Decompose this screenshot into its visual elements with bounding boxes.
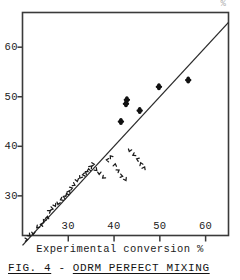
y-tick-label: 50	[0, 91, 18, 103]
y-tick-label: 40	[0, 140, 18, 152]
caption-prefix: FIG. 4	[8, 262, 51, 274]
y-tick-label: 60	[0, 41, 18, 53]
x-tick-label: 60	[188, 220, 224, 232]
x-tick-label: 40	[96, 220, 132, 232]
caption-space2	[66, 262, 73, 274]
plot-border	[23, 13, 229, 236]
caption-title: ODRM PERFECT MIXING	[73, 262, 210, 274]
x-tick-label: 30	[50, 220, 86, 232]
x-axis-ticks	[68, 236, 205, 242]
y-tick-label: 30	[0, 190, 18, 202]
x-axis-title: Experimental conversion %	[0, 243, 240, 255]
caption-dash: -	[58, 262, 65, 274]
figure-caption: FIG. 4 - ODRM PERFECT MIXING	[8, 262, 210, 274]
x-tick-label: 50	[142, 220, 178, 232]
figure-container: % 30405060 30405060 Experimental convers…	[0, 0, 240, 280]
parity-plot	[0, 0, 240, 280]
plot-frame	[23, 13, 229, 236]
